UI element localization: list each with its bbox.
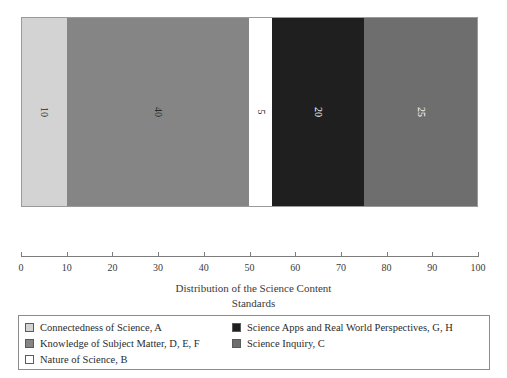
x-axis-tick-label: 100 [471,262,486,273]
legend-item[interactable]: Science Inquiry, C [232,335,453,351]
bar-segment-value-label: 40 [153,107,163,117]
legend-item-label: Nature of Science, B [40,354,127,365]
x-axis-title-line-1: Distribution of the Science Content [0,281,507,296]
legend-item[interactable]: Connectedness of Science, A [25,319,200,335]
stacked-bar-chart: 104052025 0102030405060708090100 Distrib… [0,0,507,378]
x-axis-tick [67,252,68,257]
plot-area: 104052025 [21,17,478,207]
x-axis-tick-label: 90 [427,262,437,273]
x-axis [21,256,478,257]
x-axis-tick [21,252,22,257]
bar-segment[interactable]: 10 [21,17,67,207]
legend-swatch-icon [25,323,34,332]
x-axis-tick [250,252,251,257]
legend-swatch-icon [25,339,34,348]
bar-segment[interactable]: 25 [364,17,478,207]
x-axis-tick [204,252,205,257]
x-axis-tick-label: 80 [382,262,392,273]
legend-item[interactable]: Knowledge of Subject Matter, D, E, F [25,335,200,351]
x-axis-title-line-2: Standards [0,296,507,311]
legend-item-label: Connectedness of Science, A [40,322,162,333]
x-axis-tick [158,252,159,257]
legend-item-label: Science Inquiry, C [247,338,325,349]
x-axis-tick-label: 10 [62,262,72,273]
bar-segment-value-label: 20 [313,107,323,117]
x-axis-tick [432,252,433,257]
legend-item-label: Knowledge of Subject Matter, D, E, F [40,338,200,349]
bar-segment-value-label: 10 [39,107,49,117]
legend-swatch-icon [232,323,241,332]
bar-segment-value-label: 25 [416,107,426,117]
x-axis-tick [112,252,113,257]
legend: Connectedness of Science, AKnowledge of … [18,315,490,370]
bar-segment[interactable]: 40 [67,17,250,207]
x-axis-tick-label: 0 [19,262,24,273]
stacked-bar: 104052025 [21,17,478,207]
x-axis-title: Distribution of the Science Content Stan… [0,281,507,311]
x-axis-tick [295,252,296,257]
x-axis-tick-label: 20 [107,262,117,273]
legend-item[interactable]: Nature of Science, B [25,351,200,367]
legend-column-left: Connectedness of Science, AKnowledge of … [25,319,200,367]
x-axis-tick-label: 60 [290,262,300,273]
x-axis-tick-label: 50 [245,262,255,273]
x-axis-tick-label: 30 [153,262,163,273]
bar-segment[interactable]: 20 [272,17,363,207]
x-axis-tick-label: 40 [199,262,209,273]
legend-item[interactable]: Science Apps and Real World Perspectives… [232,319,453,335]
legend-item-label: Science Apps and Real World Perspectives… [247,322,453,333]
bar-segment[interactable]: 5 [249,17,272,207]
x-axis-tick [341,252,342,257]
legend-swatch-icon [232,339,241,348]
x-axis-tick [387,252,388,257]
legend-swatch-icon [25,355,34,364]
bar-segment-value-label: 5 [256,110,266,115]
legend-column-right: Science Apps and Real World Perspectives… [232,319,453,351]
x-axis-tick [478,252,479,257]
x-axis-tick-label: 70 [336,262,346,273]
